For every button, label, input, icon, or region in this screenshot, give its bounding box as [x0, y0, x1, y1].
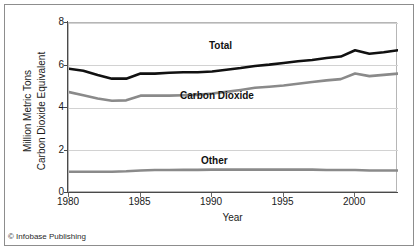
series-label-carbon-dioxide: Carbon Dioxide — [180, 90, 254, 101]
y-axis-label-line2: Carbon Dioxide Equivalent — [36, 21, 48, 201]
x-tick-label: 1980 — [48, 196, 88, 207]
y-tick-mark — [64, 192, 68, 193]
x-tick-mark — [283, 193, 284, 197]
chart-figure: 02468 19801985199019952000 Million Metri… — [0, 0, 418, 250]
x-tick-mark — [140, 193, 141, 197]
series-label-total: Total — [209, 40, 232, 51]
x-tick-label: 2000 — [334, 196, 374, 207]
x-tick-mark — [354, 193, 355, 197]
series-label-other: Other — [201, 155, 228, 166]
y-tick-mark — [64, 65, 68, 66]
y-tick-mark — [64, 150, 68, 151]
x-tick-label: 1995 — [263, 196, 303, 207]
x-axis-label: Year — [68, 212, 397, 223]
x-tick-mark — [211, 193, 212, 197]
y-tick-mark — [64, 107, 68, 108]
publisher-credit: © Infobase Publishing — [8, 232, 86, 241]
y-tick-mark — [64, 22, 68, 23]
x-tick-label: 1985 — [120, 196, 160, 207]
x-tick-label: 1990 — [191, 196, 231, 207]
x-tick-mark — [68, 193, 69, 197]
y-axis-label-line1: Million Metric Tons — [22, 21, 34, 201]
